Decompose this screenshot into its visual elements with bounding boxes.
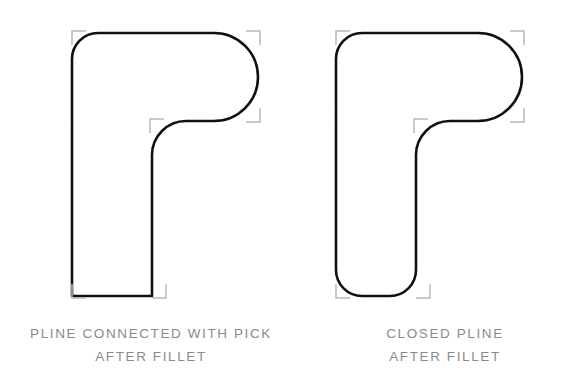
grip-arm-bottom-right-icon [510,108,524,122]
cad-drawing [0,0,588,374]
figure-right-caption-line1: CLOSED PLINE [330,322,560,345]
figure-left-caption-line2: AFTER FILLET [6,345,296,368]
drawing-canvas: PLINE CONNECTED WITH PICK AFTER FILLET C… [0,0,588,374]
grip-stem-bottom-right-icon [152,284,166,298]
figure-left[interactable] [72,31,260,298]
figure-left-caption: PLINE CONNECTED WITH PICK AFTER FILLET [6,322,296,368]
figure-left-outline[interactable] [72,33,258,296]
grip-stem-bottom-right-icon [416,284,430,298]
figure-right-outline[interactable] [336,33,522,296]
grip-arm-bottom-right-icon [246,108,260,122]
grip-top-right-icon [510,31,524,45]
figure-right[interactable] [336,31,524,298]
grip-top-right-icon [246,31,260,45]
figure-left-caption-line1: PLINE CONNECTED WITH PICK [6,322,296,345]
figure-left-grip-markers [72,31,260,298]
figure-right-caption: CLOSED PLINE AFTER FILLET [330,322,560,368]
figure-right-grip-markers [336,31,524,298]
figure-right-caption-line2: AFTER FILLET [330,345,560,368]
